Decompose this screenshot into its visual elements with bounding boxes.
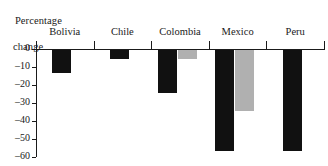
category-separator-tick bbox=[209, 41, 210, 50]
category-label-chile: Chile bbox=[111, 26, 134, 38]
bar-peru-black bbox=[283, 50, 302, 151]
y-axis-spine bbox=[36, 49, 37, 157]
plot-area: 0–10–20–30–40–50–60 BoliviaChileColombia… bbox=[36, 44, 324, 162]
category-separator-tick bbox=[324, 41, 325, 50]
y-tick: –60 bbox=[32, 157, 36, 158]
y-tick-label: –30 bbox=[15, 96, 30, 108]
category-separator-tick bbox=[36, 41, 37, 50]
y-tick-label: –10 bbox=[15, 60, 30, 72]
y-tick-label: –20 bbox=[15, 78, 30, 90]
y-tick: –50 bbox=[32, 139, 36, 140]
y-tick-label: 0 bbox=[25, 42, 30, 54]
y-tick: –30 bbox=[32, 103, 36, 104]
axis-title-line-1: Percentage bbox=[15, 15, 62, 26]
category-separator-tick bbox=[266, 41, 267, 50]
bar-bolivia-black bbox=[52, 50, 71, 73]
bar-colombia-gray bbox=[178, 50, 197, 59]
y-tick: –10 bbox=[32, 67, 36, 68]
category-separator-tick bbox=[94, 41, 95, 50]
category-label-colombia: Colombia bbox=[159, 26, 200, 38]
y-tick-label: –40 bbox=[15, 114, 30, 126]
category-label-mexico: Mexico bbox=[222, 26, 254, 38]
y-tick: –40 bbox=[32, 121, 36, 122]
y-tick: –20 bbox=[32, 85, 36, 86]
category-separator-tick bbox=[151, 41, 152, 50]
bar-colombia-black bbox=[158, 50, 177, 93]
bar-mexico-gray bbox=[235, 50, 254, 111]
bar-mexico-black bbox=[215, 50, 234, 151]
percentage-change-bar-chart: Percentage change 0–10–20–30–40–50–60 Bo… bbox=[0, 0, 328, 166]
category-label-bolivia: Bolivia bbox=[49, 26, 80, 38]
category-label-peru: Peru bbox=[286, 26, 305, 38]
y-tick-label: –60 bbox=[15, 150, 30, 162]
y-tick-label: –50 bbox=[15, 132, 30, 144]
bar-chile-black bbox=[110, 50, 129, 59]
